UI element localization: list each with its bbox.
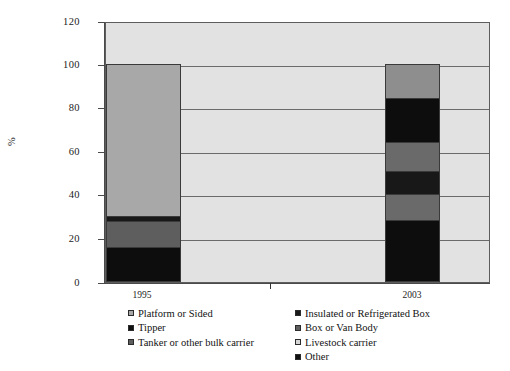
x-tick-label-1995: 1995 xyxy=(102,290,182,300)
legend-swatch-box-or-van-body xyxy=(295,325,301,331)
y-tick-label-20: 20 xyxy=(8,233,80,244)
plot-area xyxy=(105,22,490,283)
x-tick-center xyxy=(270,283,271,289)
legend-column-left: Platform or Sided Tipper Tanker or other… xyxy=(128,306,254,350)
y-tick-40 xyxy=(98,195,105,196)
legend-swatch-tipper xyxy=(128,325,134,331)
legend-label-platform-or-sided: Platform or Sided xyxy=(138,308,213,319)
legend-label-box-or-van-body: Box or Van Body xyxy=(305,322,378,333)
legend-label-insulated-or-refrigerated-box: Insulated or Refrigerated Box xyxy=(305,308,430,319)
y-tick-label-80: 80 xyxy=(8,102,80,113)
bar-segment-2003-tanker xyxy=(385,142,440,171)
y-tick-80 xyxy=(98,108,105,109)
legend-label-tanker-or-other-bulk-carrier: Tanker or other bulk carrier xyxy=(138,337,254,348)
y-axis-line xyxy=(104,22,105,284)
y-tick-120 xyxy=(98,22,105,23)
x-axis-line xyxy=(105,283,490,284)
bar-segment-1995-tanker xyxy=(106,221,181,247)
legend-swatch-other xyxy=(295,354,301,360)
y-tick-label-60: 60 xyxy=(8,146,80,157)
legend-label-livestock-carrier: Livestock carrier xyxy=(305,337,376,348)
y-tick-label-100: 100 xyxy=(8,59,80,70)
legend-label-tipper: Tipper xyxy=(138,322,166,333)
bar-segment-1995-other xyxy=(106,216,181,221)
bar-segment-2003-platform xyxy=(385,64,440,98)
y-tick-0 xyxy=(98,283,105,284)
y-tick-20 xyxy=(98,239,105,240)
bar-segment-1995-tipper xyxy=(106,247,181,282)
y-tick-label-40: 40 xyxy=(8,189,80,200)
y-tick-label-0: 0 xyxy=(8,277,80,288)
y-tick-100 xyxy=(98,65,105,66)
y-tick-60 xyxy=(98,152,105,153)
bar-segment-2003-tipper xyxy=(385,220,440,282)
legend-item-platform-or-sided: Platform or Sided xyxy=(128,306,254,321)
bar-segment-2003-insulated xyxy=(385,98,440,142)
legend-item-livestock-carrier: Livestock carrier xyxy=(295,335,430,350)
legend-item-insulated-or-refrigerated-box: Insulated or Refrigerated Box xyxy=(295,306,430,321)
y-tick-label-120: 120 xyxy=(8,16,80,27)
legend-swatch-platform-or-sided xyxy=(128,310,134,316)
legend-item-tanker-or-other-bulk-carrier: Tanker or other bulk carrier xyxy=(128,335,254,350)
chart-legend: Platform or Sided Tipper Tanker or other… xyxy=(105,306,475,368)
legend-label-other: Other xyxy=(305,351,329,362)
y-axis-title: % xyxy=(6,137,17,146)
bar-2003 xyxy=(385,21,440,282)
stacked-bar-chart: % 120 100 80 60 40 20 0 1995 2003 Platfo… xyxy=(0,0,510,371)
legend-item-tipper: Tipper xyxy=(128,321,254,336)
legend-column-right: Insulated or Refrigerated Box Box or Van… xyxy=(295,306,430,364)
legend-swatch-livestock-carrier xyxy=(295,339,301,345)
legend-swatch-insulated-or-refrigerated-box xyxy=(295,310,301,316)
legend-item-box-or-van-body: Box or Van Body xyxy=(295,321,430,336)
x-tick-label-2003: 2003 xyxy=(372,290,452,300)
bar-segment-2003-other xyxy=(385,171,440,194)
bar-1995 xyxy=(106,21,181,282)
bar-segment-2003-box-van xyxy=(385,194,440,220)
legend-swatch-tanker-or-other-bulk-carrier xyxy=(128,339,134,345)
legend-item-other: Other xyxy=(295,350,430,365)
bar-segment-1995-platform xyxy=(106,64,181,216)
